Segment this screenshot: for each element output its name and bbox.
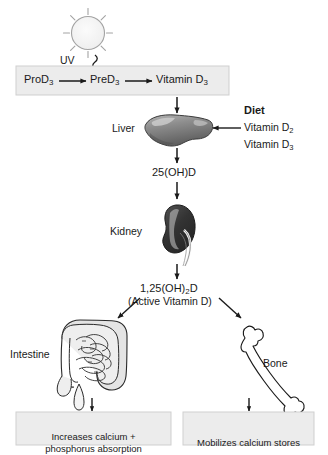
liver-icon [145, 115, 213, 146]
liver-label: Liver [112, 122, 135, 134]
prod3-label: ProD3 [24, 73, 53, 87]
diet-heading: Diet [244, 104, 265, 117]
bone-icon [241, 326, 304, 416]
kidney-icon [163, 205, 195, 266]
diet-item-vitamin-d2: Vitamin D2 [244, 121, 294, 136]
intestine-label: Intestine [10, 348, 50, 360]
kidney-label: Kidney [110, 225, 142, 237]
intestine-icon [57, 320, 127, 410]
intestine-outcome-text: Increases calcium + phosphorus absorptio… [16, 419, 171, 455]
arrow-calcitriol-to-bone [219, 298, 241, 318]
active-vitamin-d-note: (Active Vitamin D) [128, 295, 212, 307]
uv-label: UV [60, 54, 75, 66]
bone-outcome-text: Mobilizes calcium stores [183, 425, 314, 449]
vitamind3-label: Vitamin D3 [156, 73, 208, 87]
sun-icon [64, 9, 113, 58]
diet-item-vitamin-d3: Vitamin D3 [244, 138, 294, 153]
bone-label: Bone [263, 357, 288, 369]
metabolite-calcitriol-label: 1,25(OH)2D [140, 282, 198, 296]
pred3-label: PreD3 [90, 73, 119, 87]
metabolite-25ohd-label: 25(OH)D [152, 166, 196, 179]
